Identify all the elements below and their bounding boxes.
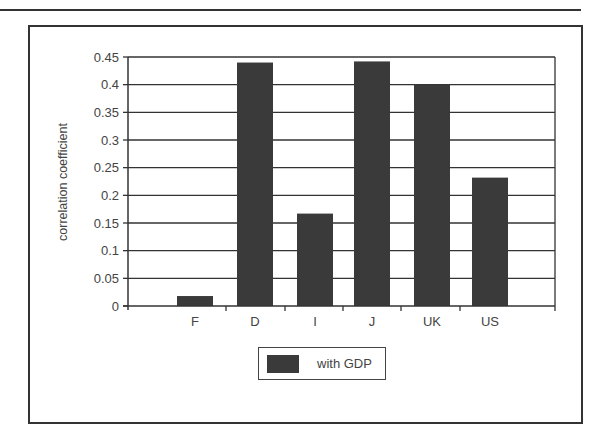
bars [177, 61, 508, 306]
legend-label: with GDP [317, 356, 372, 371]
y-tick-label: 0.15 [94, 216, 119, 231]
bar-f [177, 296, 213, 306]
y-tick-label: 0.2 [101, 188, 119, 203]
bar-uk [414, 85, 450, 306]
y-tick-label: 0.25 [94, 160, 119, 175]
x-tick-label: UK [423, 314, 441, 329]
bar-us [472, 178, 508, 306]
legend-swatch [267, 355, 299, 373]
y-axis-label: correlation coefficient [56, 123, 70, 241]
y-tick-label: 0.4 [101, 77, 119, 92]
bar-j [354, 61, 390, 306]
y-tick-label: 0.3 [101, 133, 119, 148]
y-tick-label: 0.45 [94, 50, 119, 65]
x-tick-label: US [481, 314, 499, 329]
y-tick-label: 0.05 [94, 271, 119, 286]
bar-d [237, 63, 273, 306]
x-tick-label: I [313, 314, 317, 329]
y-tick-label: 0 [112, 299, 119, 314]
x-tick-label: D [250, 314, 259, 329]
legend: with GDP [258, 347, 386, 380]
y-tick-label: 0.1 [101, 243, 119, 258]
x-tick-label: J [369, 314, 376, 329]
y-tick-label: 0.35 [94, 105, 119, 120]
x-tick-label: F [191, 314, 199, 329]
bar-i [297, 214, 333, 306]
